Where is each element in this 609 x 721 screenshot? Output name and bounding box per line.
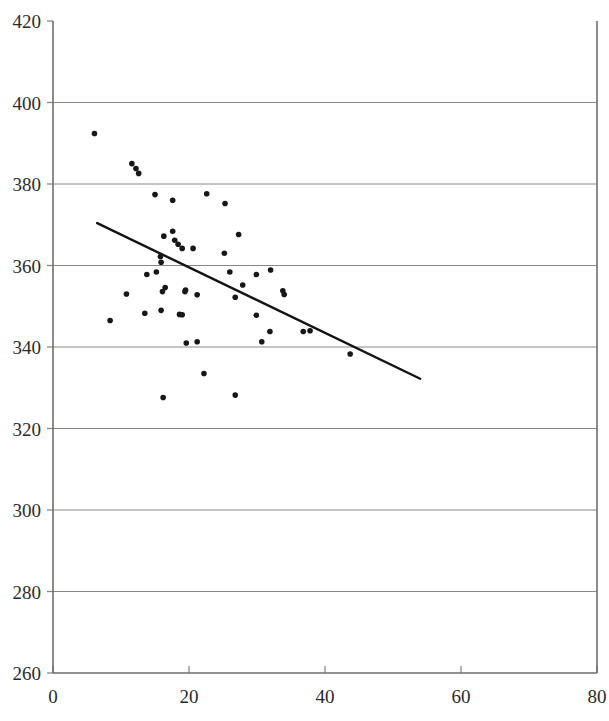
page-bleed-text	[0, 707, 609, 721]
data-point	[160, 289, 166, 295]
y-tick-label-340: 340	[13, 337, 42, 358]
x-tickmarks-group	[53, 666, 597, 673]
data-point	[201, 371, 207, 377]
data-point	[347, 351, 353, 357]
data-point	[307, 328, 313, 334]
data-point	[144, 272, 150, 278]
data-point	[204, 191, 210, 197]
data-point	[136, 171, 142, 177]
data-point	[259, 339, 265, 345]
data-point	[124, 291, 130, 297]
data-point	[129, 161, 135, 167]
data-point	[254, 272, 260, 278]
x-tick-labels-group: 020406080	[48, 686, 606, 707]
data-point	[236, 232, 242, 238]
y-tick-label-280: 280	[13, 582, 42, 603]
y-tick-label-260: 260	[13, 663, 42, 684]
data-point	[190, 246, 196, 252]
y-tick-label-400: 400	[13, 93, 42, 114]
data-point	[232, 392, 238, 398]
x-tick-label-80: 80	[588, 686, 607, 707]
y-tickmarks-group	[47, 21, 53, 673]
y-tick-label-320: 320	[13, 419, 42, 440]
data-point	[175, 242, 181, 248]
regression-line	[97, 223, 420, 379]
data-point	[142, 310, 148, 316]
data-point	[222, 201, 228, 207]
data-point	[267, 329, 273, 335]
data-point	[300, 329, 306, 335]
data-point	[268, 267, 274, 273]
y-tick-label-360: 360	[13, 256, 42, 277]
data-point	[182, 289, 188, 295]
y-tick-label-300: 300	[13, 500, 42, 521]
data-point	[161, 233, 167, 239]
data-point	[92, 131, 98, 137]
data-point	[232, 294, 238, 300]
y-tick-label-380: 380	[13, 174, 42, 195]
scatter-plot-figure: 260280300320340360380400420 020406080	[0, 0, 609, 721]
gridlines-group	[53, 103, 597, 592]
regression-line-group	[97, 223, 420, 379]
x-tick-label-0: 0	[48, 686, 58, 707]
y-tick-label-420: 420	[13, 11, 42, 32]
data-point	[160, 395, 166, 401]
data-point	[107, 318, 113, 324]
data-point	[222, 250, 228, 256]
data-point	[240, 282, 246, 288]
data-point	[133, 166, 139, 172]
data-point	[179, 246, 185, 252]
y-tick-labels-group: 260280300320340360380400420	[13, 11, 42, 684]
data-point	[194, 339, 200, 345]
data-point	[183, 340, 189, 346]
data-point	[170, 228, 176, 234]
data-point	[179, 312, 185, 318]
data-point	[158, 308, 164, 314]
data-point	[281, 292, 287, 298]
data-point	[158, 254, 164, 260]
data-point	[194, 292, 200, 298]
data-point	[254, 312, 260, 318]
data-point	[170, 198, 176, 204]
x-tick-label-40: 40	[316, 686, 335, 707]
data-point	[152, 192, 158, 198]
data-point	[227, 269, 233, 275]
data-point	[154, 269, 160, 275]
x-tick-label-20: 20	[180, 686, 199, 707]
plot-canvas: 260280300320340360380400420 020406080	[0, 0, 609, 721]
x-tick-label-60: 60	[452, 686, 471, 707]
data-point	[158, 259, 164, 265]
